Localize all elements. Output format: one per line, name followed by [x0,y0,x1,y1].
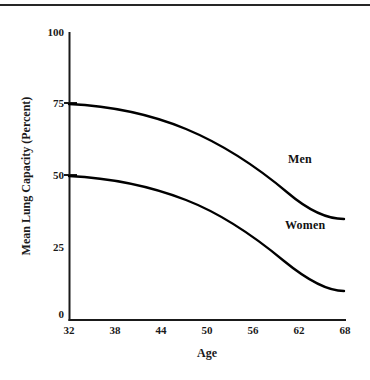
chart-plot-area [0,0,370,380]
x-tick-label-50: 50 [202,325,213,336]
series-line-women [69,176,344,291]
series-label-women: Women [285,218,325,233]
y-tick-label-75: 75 [38,98,64,109]
x-tick-label-56: 56 [248,325,259,336]
y-tick-label-50: 50 [38,170,64,181]
y-tick-label-100: 100 [38,27,64,38]
x-tick-label-32: 32 [64,325,75,336]
series-label-men: Men [288,152,312,167]
x-tick-label-62: 62 [294,325,305,336]
x-tick-label-44: 44 [156,325,167,336]
x-tick-label-68: 68 [340,325,351,336]
x-tick-label-38: 38 [110,325,121,336]
y-tick-label-0: 0 [38,309,64,320]
lung-capacity-figure: 100 75 50 25 0 32 38 44 50 56 62 68 Age … [0,0,370,380]
y-tick-label-25: 25 [38,242,64,253]
y-axis-title: Mean Lung Capacity (Percent) [19,66,34,286]
x-axis-title: Age [197,346,217,361]
